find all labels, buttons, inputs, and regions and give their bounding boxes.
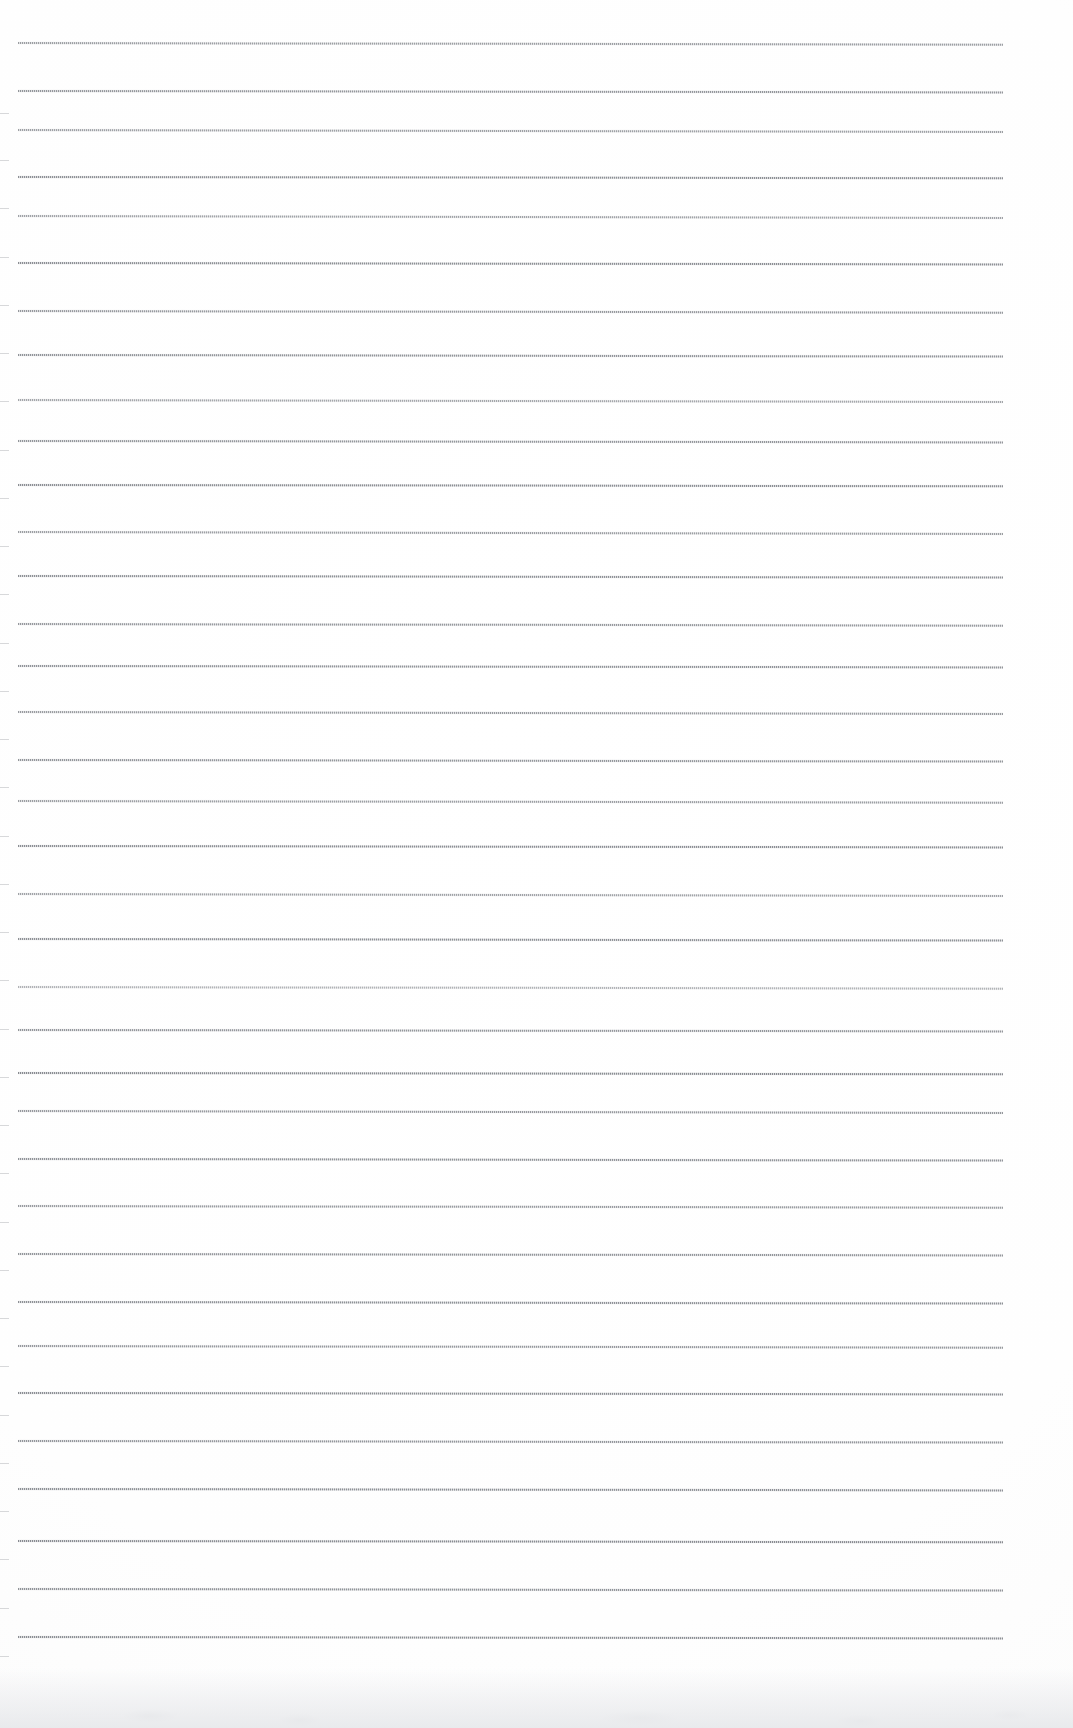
left-edge-stub <box>0 594 9 595</box>
rule-line <box>18 176 1003 179</box>
left-edge-stub <box>0 113 9 114</box>
left-edge-stub <box>0 353 9 354</box>
left-edge-stub <box>0 1077 9 1078</box>
rule-line <box>18 938 1003 942</box>
rule-line <box>18 623 1003 627</box>
rule-line <box>18 845 1003 848</box>
rule-line <box>18 310 1003 314</box>
rule-line <box>18 42 1003 46</box>
rule-line <box>18 1636 1003 1639</box>
left-edge-stub <box>0 739 9 740</box>
left-edge-stub <box>0 1222 9 1223</box>
rule-line <box>18 800 1003 804</box>
left-edge-stub <box>0 1366 9 1367</box>
left-edge-stub <box>0 691 9 692</box>
rule-line <box>18 1205 1003 1209</box>
rule-line <box>18 711 1003 715</box>
left-edge-stub <box>0 932 9 933</box>
rule-line <box>18 575 1003 579</box>
paper-texture <box>0 0 1073 1728</box>
rule-line <box>18 1392 1003 1395</box>
rule-line <box>18 1540 1003 1543</box>
rule-line <box>18 1158 1003 1162</box>
left-edge-stub <box>0 401 9 402</box>
rule-line <box>18 1440 1003 1444</box>
left-edge-stub <box>0 836 9 837</box>
left-edge-stub <box>0 305 9 306</box>
rule-line <box>18 440 1003 443</box>
rule-line <box>18 399 1003 403</box>
rule-line <box>18 1301 1003 1305</box>
left-edge-stub <box>0 1270 9 1271</box>
left-edge-stub <box>0 884 9 885</box>
rule-line <box>18 129 1003 133</box>
rule-line <box>18 986 1003 990</box>
left-edge-stub <box>0 1125 9 1126</box>
left-edge-stub <box>0 1029 9 1030</box>
scan-smudges <box>0 1694 1073 1728</box>
left-edge-stub <box>0 787 9 788</box>
rule-line <box>18 484 1003 487</box>
left-edge-stub <box>0 1463 9 1464</box>
rule-line <box>18 1072 1003 1075</box>
left-edge-stub <box>0 1318 9 1319</box>
scanned-page <box>0 0 1073 1728</box>
rule-line <box>18 1345 1003 1349</box>
left-edge-stub <box>0 1656 9 1657</box>
rule-line <box>18 1253 1003 1256</box>
rule-line <box>18 354 1003 358</box>
left-edge-stub <box>0 450 9 451</box>
left-edge-stub <box>0 257 9 258</box>
rule-line <box>18 215 1003 219</box>
rule-line <box>18 1488 1003 1491</box>
left-edge-stub <box>0 208 9 209</box>
scan-bottom-shadow <box>0 1668 1073 1728</box>
rule-line <box>18 531 1003 535</box>
rule-line <box>18 893 1003 897</box>
left-edge-stub <box>0 1608 9 1609</box>
left-edge-stub <box>0 1173 9 1174</box>
left-edge-stub <box>0 160 9 161</box>
rule-line <box>18 1110 1003 1114</box>
left-edge-stub <box>0 498 9 499</box>
rule-line <box>18 759 1003 763</box>
rule-line <box>18 1588 1003 1592</box>
left-edge-stub <box>0 643 9 644</box>
rule-line <box>18 262 1003 265</box>
left-edge-stub <box>0 546 9 547</box>
rule-line <box>18 1029 1003 1032</box>
left-edge-stub <box>0 1511 9 1512</box>
left-edge-stub <box>0 1559 9 1560</box>
left-edge-stub <box>0 980 9 981</box>
rule-line <box>18 665 1003 668</box>
rule-line <box>18 90 1003 93</box>
left-edge-stub <box>0 1415 9 1416</box>
